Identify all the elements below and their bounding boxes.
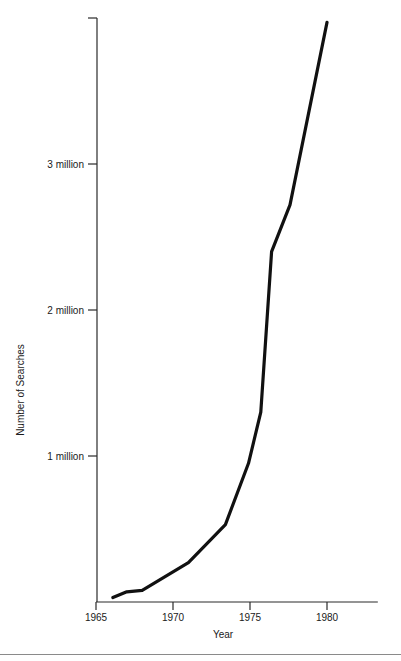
y-tick-label: 3 million bbox=[47, 159, 84, 170]
y-tick-label: 1 million bbox=[47, 451, 84, 462]
line-chart: 1 million2 million3 million 196519701975… bbox=[0, 0, 401, 661]
x-tick-label: 1980 bbox=[316, 612, 339, 623]
x-axis: 1965197019751980 bbox=[85, 602, 378, 623]
x-tick-label: 1970 bbox=[162, 612, 185, 623]
y-tick-label: 2 million bbox=[47, 305, 84, 316]
x-axis-title: Year bbox=[213, 629, 234, 640]
x-tick-label: 1975 bbox=[239, 612, 262, 623]
x-tick-label: 1965 bbox=[85, 612, 108, 623]
bottom-rule-divider bbox=[0, 654, 401, 655]
searches-line bbox=[113, 22, 327, 597]
y-axis: 1 million2 million3 million bbox=[47, 18, 97, 602]
y-axis-title: Number of Searches bbox=[15, 344, 26, 436]
